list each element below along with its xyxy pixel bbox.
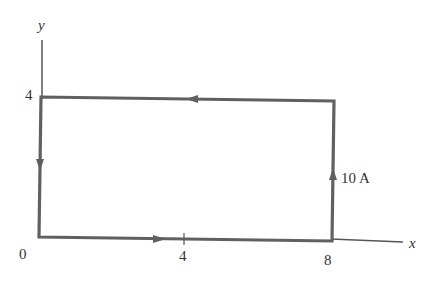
x-axis [331, 239, 403, 242]
arrow-left-icon [186, 95, 198, 103]
arrow-right-icon [153, 235, 166, 243]
y-axis-label: y [38, 18, 45, 33]
current-loop [39, 97, 334, 241]
x-axis-label: x [409, 236, 416, 251]
current-label: 10 A [341, 171, 370, 186]
x-tick-label-4: 4 [179, 249, 187, 264]
origin-label: 0 [19, 247, 27, 262]
y-tick-label: 4 [25, 88, 33, 103]
loop-diagram [0, 0, 438, 281]
arrow-down-icon [36, 159, 44, 171]
arrow-up-icon [329, 168, 337, 180]
x-tick-label-8: 8 [324, 253, 332, 268]
